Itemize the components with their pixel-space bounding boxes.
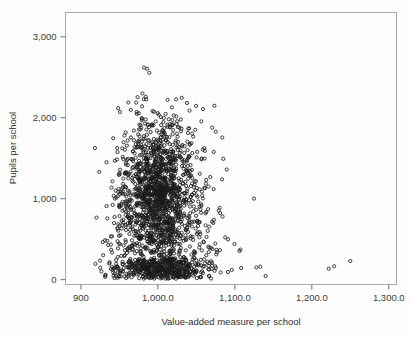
x-tick-label: 1,300.0 xyxy=(373,292,405,303)
plot-background xyxy=(0,0,413,342)
y-tick-label: 0 xyxy=(51,274,56,285)
y-tick-label: 1,000 xyxy=(33,193,57,204)
x-axis-title: Value-added measure per school xyxy=(161,316,300,327)
y-axis-title: Pupils per school xyxy=(7,112,18,184)
scatter-plot: 9001,000.01,100.01,200.01,300.001,0002,0… xyxy=(0,0,413,342)
x-tick-label: 900 xyxy=(73,292,89,303)
x-tick-label: 1,000.0 xyxy=(142,292,174,303)
figure-container: 9001,000.01,100.01,200.01,300.001,0002,0… xyxy=(0,0,413,342)
y-tick-label: 3,000 xyxy=(33,31,57,42)
x-tick-label: 1,200.0 xyxy=(296,292,328,303)
x-tick-label: 1,100.0 xyxy=(219,292,251,303)
y-tick-label: 2,000 xyxy=(33,112,57,123)
